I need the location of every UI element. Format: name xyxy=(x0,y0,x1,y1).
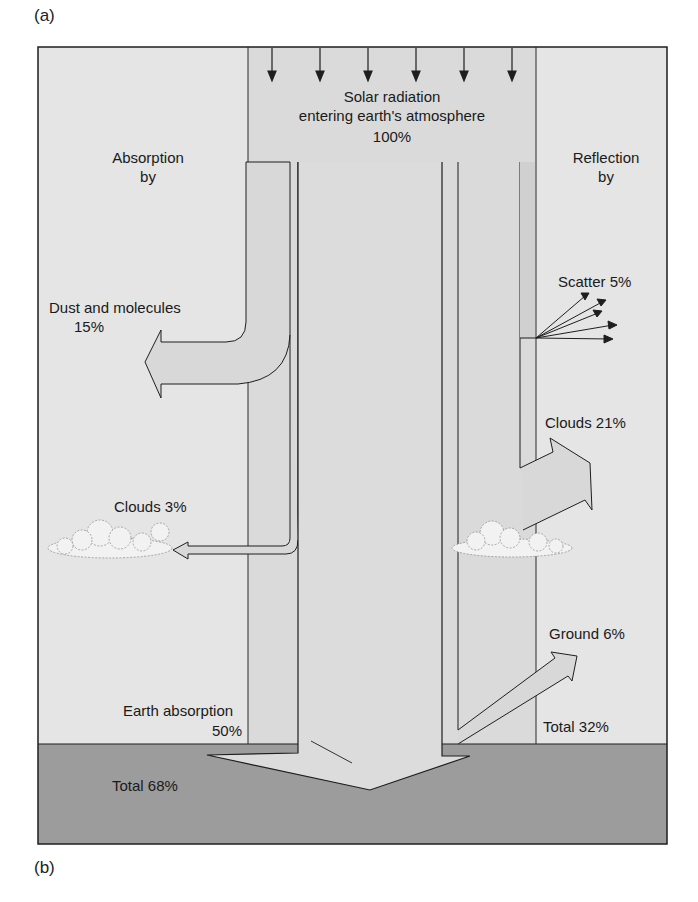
earth-absorption-value: 50% xyxy=(212,721,242,740)
absorption-heading-1: Absorption xyxy=(88,148,208,167)
ground-reflect-label: Ground 6% xyxy=(549,624,625,643)
scatter-label: Scatter 5% xyxy=(558,272,631,291)
reflection-total: Total 32% xyxy=(543,717,609,736)
absorption-heading-2: by xyxy=(88,167,208,186)
reflection-heading-1: Reflection xyxy=(556,148,656,167)
clouds-reflect-label: Clouds 21% xyxy=(545,413,626,432)
solar-line1: Solar radiation xyxy=(248,87,536,106)
clouds-absorb-label: Clouds 3% xyxy=(114,497,187,516)
earth-absorption-label: Earth absorption xyxy=(123,701,233,720)
dust-label: Dust and molecules xyxy=(49,298,181,317)
solar-line2: entering earth's atmosphere xyxy=(248,106,536,125)
absorption-total: Total 68% xyxy=(112,776,178,795)
dust-value: 15% xyxy=(74,317,104,336)
panel-label-b: (b) xyxy=(34,858,55,878)
solar-value: 100% xyxy=(248,127,536,146)
reflection-heading-2: by xyxy=(556,167,656,186)
